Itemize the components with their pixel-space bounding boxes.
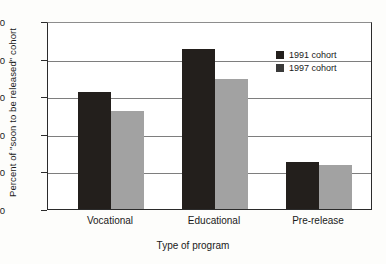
bar-vocational-1991	[78, 92, 111, 209]
y-tick-label-10: 10	[0, 167, 5, 178]
legend-swatch-1997-icon	[276, 64, 284, 72]
y-tick-label-40: 40	[0, 54, 5, 65]
bar-educational-1991	[182, 49, 215, 209]
y-tick-mark-0	[41, 210, 47, 211]
bar-group-educational	[180, 23, 250, 209]
bar-prerelease-1997	[319, 165, 352, 209]
legend-label-1997: 1997 cohort	[289, 63, 337, 73]
bar-educational-1997	[215, 79, 248, 209]
plot-area: 1991 cohort 1997 cohort	[47, 22, 372, 210]
y-axis-title: Percent of "soon to be released" cohort	[7, 13, 18, 213]
x-tick-label-prerelease: Pre-release	[292, 215, 344, 226]
legend-swatch-1991-icon	[276, 51, 284, 59]
bar-vocational-1997	[111, 111, 144, 210]
x-tick-label-vocational: Vocational	[87, 215, 133, 226]
y-tick-label-20: 20	[0, 129, 5, 140]
x-axis-title: Type of program	[0, 240, 386, 251]
x-tick-label-educational: Educational	[188, 215, 240, 226]
legend-item-1997: 1997 cohort	[276, 62, 337, 73]
legend-item-1991: 1991 cohort	[276, 49, 337, 60]
chart-legend: 1991 cohort 1997 cohort	[276, 49, 337, 75]
bar-group-vocational	[76, 23, 146, 209]
bar-prerelease-1991	[286, 162, 319, 209]
y-tick-label-0: 0	[0, 205, 5, 216]
y-tick-label-30: 30	[0, 92, 5, 103]
bar-chart-figure: Percent of "soon to be released" cohort …	[0, 0, 386, 264]
y-tick-label-50: 50	[0, 17, 5, 28]
legend-label-1991: 1991 cohort	[289, 50, 337, 60]
